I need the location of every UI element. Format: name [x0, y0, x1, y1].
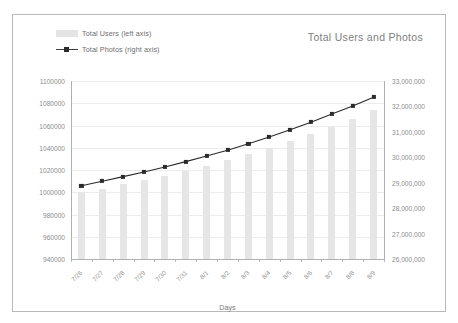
data-point-marker — [163, 165, 167, 169]
x-axis-title: Days — [71, 303, 384, 312]
chart-canvas: Total Users (left axis) Total Photos (ri… — [13, 15, 447, 313]
data-point-marker — [267, 135, 271, 139]
data-point-marker — [225, 148, 229, 152]
data-point-marker — [351, 104, 355, 108]
data-point-marker — [330, 112, 334, 116]
data-point-marker — [371, 95, 375, 99]
data-point-marker — [288, 128, 292, 132]
data-point-marker — [205, 154, 209, 158]
data-point-marker — [79, 184, 83, 188]
data-point-marker — [142, 170, 146, 174]
data-point-marker — [184, 160, 188, 164]
chart-frame: Total Users (left axis) Total Photos (ri… — [12, 14, 446, 312]
data-point-marker — [246, 142, 250, 146]
data-point-marker — [121, 175, 125, 179]
data-point-marker — [100, 179, 104, 183]
line-series-total-photos — [13, 15, 447, 313]
data-point-marker — [309, 120, 313, 124]
